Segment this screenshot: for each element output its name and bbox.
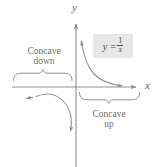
concave-up-annotation: Concave up: [81, 110, 137, 130]
y-axis-label: y: [72, 2, 77, 14]
equation-callout-box: y =1x: [93, 34, 133, 58]
concave-down-annotation: Concave down: [17, 47, 71, 67]
x-axis-label: x: [145, 80, 150, 92]
brace-concave-down: [14, 70, 73, 81]
equation-lhs: y =: [103, 41, 117, 52]
curve-branch-quadrant-1-arrow-up: [81, 41, 82, 48]
equation-text: y =1x: [93, 34, 133, 58]
concave-up-line-2: up: [81, 120, 137, 130]
curve-branch-quadrant-3-arrow-left: [27, 97, 34, 98]
curve-branch-quadrant-3: [36, 94, 71, 131]
brace-concave-up: [80, 93, 140, 104]
concavity-figure: y x Concave down Concave up y =1x: [0, 0, 159, 167]
fraction-one-over-x: 1x: [117, 37, 123, 54]
concave-down-line-2: down: [17, 57, 71, 67]
fraction-denominator: x: [118, 46, 124, 54]
figure-canvas: [0, 0, 159, 167]
fraction-numerator: 1: [117, 37, 123, 45]
